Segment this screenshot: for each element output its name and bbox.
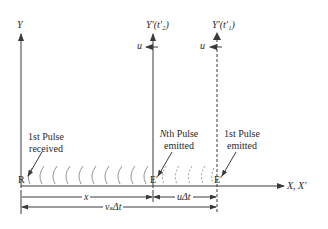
y-prime-t2-label: Y′(t′₂) — [146, 20, 169, 30]
velocity-u-label-t1: u — [200, 41, 205, 51]
first-emitter-point-label: E′ — [214, 175, 222, 185]
first-pulse-received-line1: 1st Pulse — [26, 131, 66, 143]
wavefront-arcs-received — [28, 166, 148, 184]
first-pulse-received-note: 1st Pulse received — [26, 131, 66, 155]
nth-pulse-emitted-line1-rest: th Pulse — [166, 128, 198, 139]
first-pulse-emitted-line2: emitted — [220, 140, 264, 152]
first-pulse-received-line2: received — [26, 143, 66, 155]
y-prime-t1-axis — [210, 32, 222, 212]
nth-emitter-point-label: E′ — [150, 175, 158, 185]
y-prime-t2-axis — [146, 34, 158, 188]
receiver-point-label: R — [18, 175, 25, 185]
diagram-graphics — [0, 0, 328, 229]
nth-pulse-emitted-line1: Nth Pulse — [155, 128, 203, 140]
velocity-u-label-t2: u — [137, 41, 142, 51]
nth-pulse-emitted-note: Nth Pulse emitted — [155, 128, 203, 152]
y-axis-label: Y — [17, 20, 23, 30]
x-axis-label: X, X′ — [287, 181, 306, 191]
dimension-u-delta-t-label: uΔt — [175, 192, 193, 202]
nth-pulse-emitted-line2: emitted — [155, 140, 203, 152]
wavefront-arcs-emitted — [162, 166, 214, 184]
y-prime-t1-label: Y′(t′₁) — [212, 20, 235, 30]
dimension-vs-delta-t-label: vₛΔt — [103, 202, 123, 212]
dimension-x-label: x — [82, 192, 90, 202]
first-pulse-emitted-line1: 1st Pulse — [220, 128, 264, 140]
doppler-diagram: Y Y′(t′₂) Y′(t′₁) X, X′ u u R E′ E′ 1st … — [0, 0, 328, 229]
first-pulse-emitted-note: 1st Pulse emitted — [220, 128, 264, 152]
